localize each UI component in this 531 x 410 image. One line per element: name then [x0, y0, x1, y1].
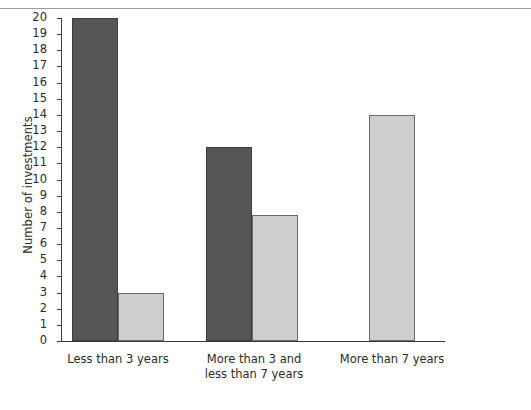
y-tick-label: 10: [7, 172, 47, 186]
y-tick-label: 4: [7, 268, 47, 282]
y-tick-label: 9: [7, 188, 47, 202]
y-tick-label: 7: [7, 220, 47, 234]
y-tick-label: 11: [7, 155, 47, 169]
plot-area: [62, 18, 445, 341]
y-tick-label: 5: [7, 252, 47, 266]
y-tick-label: 15: [7, 91, 47, 105]
y-tick-label: 1: [7, 317, 47, 331]
category-label-3: More than 7 years: [307, 352, 477, 367]
y-tick-label: 19: [7, 26, 47, 40]
y-tick-label: 17: [7, 58, 47, 72]
y-tick-label: 13: [7, 123, 47, 137]
bar-dark-series-group-1: [72, 18, 118, 341]
y-tick-label: 2: [7, 301, 47, 315]
bar-light-series-group-3: [369, 115, 415, 341]
x-axis-baseline: [61, 341, 445, 342]
y-tick-label: 6: [7, 236, 47, 250]
y-tick-label: 18: [7, 42, 47, 56]
bar-light-series-group-1: [118, 293, 164, 341]
y-tick-label: 14: [7, 107, 47, 121]
y-tick-label: 12: [7, 139, 47, 153]
y-tick-label: 16: [7, 75, 47, 89]
y-tick-label: 3: [7, 285, 47, 299]
y-tick-mark: [57, 341, 62, 342]
y-tick-label: 20: [7, 10, 47, 24]
bar-dark-series-group-2: [206, 147, 252, 341]
y-tick-label: 0: [7, 333, 47, 347]
bar-light-series-group-2: [252, 215, 298, 341]
y-tick-label: 8: [7, 204, 47, 218]
bar-chart-figure: Number of investments 201918171615141312…: [0, 0, 531, 410]
